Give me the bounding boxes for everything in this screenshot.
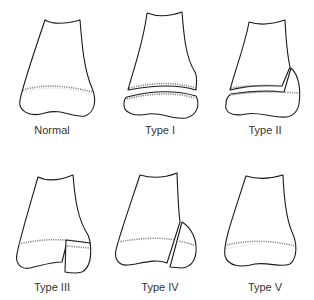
panel-type5-bone: [225, 175, 296, 266]
label-type3: Type III: [12, 281, 92, 293]
fracture-diagram: [0, 0, 314, 300]
label-type2: Type II: [225, 124, 305, 136]
panel-type4-bone: [116, 173, 197, 268]
panel-type1-bone: [124, 12, 198, 118]
label-type4: Type IV: [120, 281, 200, 293]
label-type5: Type V: [225, 281, 305, 293]
panel-normal-bone: [20, 20, 95, 116]
label-normal: Normal: [12, 124, 92, 136]
panel-type2-bone: [226, 20, 300, 117]
panel-type3-bone: [17, 175, 91, 273]
label-type1: Type I: [120, 124, 200, 136]
